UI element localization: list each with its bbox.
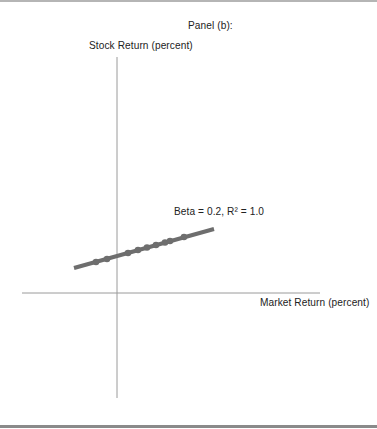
data-point [104,256,111,263]
data-point [181,234,188,241]
data-point [167,238,174,245]
data-point [135,247,142,254]
bottom-rule [0,425,377,428]
data-point [93,259,100,266]
plot-area [0,0,377,429]
data-point [125,250,132,257]
data-point [153,242,160,249]
data-point [144,244,151,251]
